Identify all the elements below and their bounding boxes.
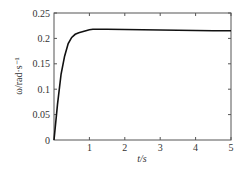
y-tick-label: 0.05 (33, 109, 51, 120)
y-axis: 00.050.10.150.20.25 (33, 8, 232, 146)
y-tick-label: 0.2 (38, 33, 51, 44)
y-tick-label: 0 (45, 135, 50, 146)
y-tick-label: 0.25 (33, 8, 51, 19)
x-tick-label: 5 (229, 142, 234, 153)
line-chart: 00.050.10.150.20.25 12345 t/s ω/rad·s⁻¹ (0, 0, 243, 175)
y-tick-label: 0.1 (38, 84, 51, 95)
x-tick-label: 4 (193, 142, 198, 153)
x-tick-label: 2 (122, 142, 127, 153)
x-axis: 12345 (87, 13, 234, 153)
x-tick-label: 3 (158, 142, 163, 153)
y-tick-label: 0.15 (33, 58, 51, 69)
x-tick-label: 1 (87, 142, 92, 153)
omega-curve (54, 29, 231, 140)
y-axis-label: ω/rad·s⁻¹ (13, 57, 24, 94)
x-axis-label: t/s (137, 153, 147, 164)
